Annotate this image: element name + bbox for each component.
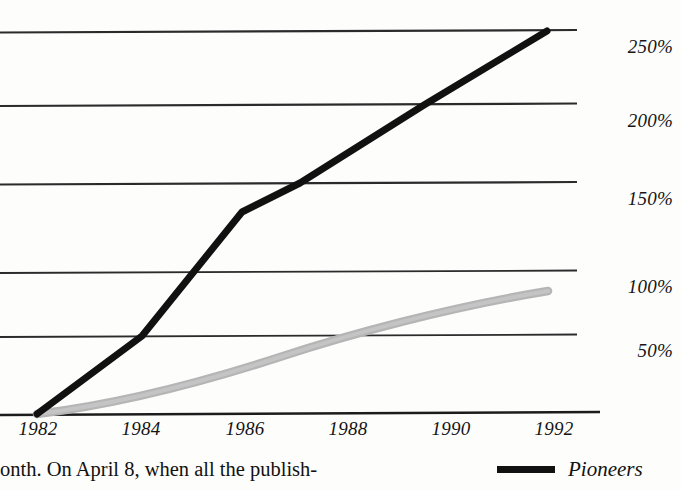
axis-baseline (0, 412, 600, 415)
legend-swatch-pioneers (497, 466, 555, 473)
article-body-text: onth. On April 8, when all the publish- (0, 454, 317, 484)
xtick-label-1986: 1986 (226, 418, 265, 440)
gridline-200 (0, 104, 577, 107)
xtick-label-1990: 1990 (432, 418, 471, 440)
legend-label-pioneers: Pioneers (568, 457, 643, 482)
xtick-label-1984: 1984 (122, 418, 161, 440)
ytick-label-100: 100% (628, 276, 673, 298)
ytick-label-250: 250% (628, 36, 673, 58)
caption-and-legend-row: onth. On April 8, when all the publish- … (0, 452, 681, 490)
xtick-label-1988: 1988 (329, 418, 368, 440)
ytick-label-50: 50% (638, 340, 673, 362)
chart-canvas (0, 0, 681, 430)
gridline-100 (0, 271, 577, 274)
chart-legend: Pioneers (497, 454, 643, 484)
ytick-label-200: 200% (628, 110, 673, 132)
xtick-label-1982: 1982 (19, 418, 58, 440)
gridlines (0, 30, 600, 415)
chart-plot-area: 250% 200% 150% 100% 50% 1982 1984 1986 1… (0, 0, 681, 430)
xtick-label-1992: 1992 (535, 418, 574, 440)
gridline-150 (0, 182, 577, 185)
chart-page: 250% 200% 150% 100% 50% 1982 1984 1986 1… (0, 0, 681, 490)
gridline-50 (0, 335, 577, 338)
gridline-250 (0, 30, 577, 33)
ytick-label-150: 150% (628, 188, 673, 210)
